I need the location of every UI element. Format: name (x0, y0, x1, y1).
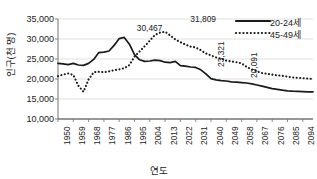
x-tick-label: 2013 (169, 126, 179, 145)
population-projection-chart: 인구(천 명) 35,00030,00025,00020,00015,00010… (0, 0, 317, 179)
series-line-20-24세 (58, 37, 313, 91)
data-annotation: 23,321 (216, 41, 226, 67)
legend-marks (236, 21, 270, 33)
x-tick-label: 2031 (199, 126, 209, 145)
x-tick-label: 2085 (291, 126, 301, 145)
x-tick-label: 2040 (215, 126, 225, 145)
data-annotation: 20,091 (249, 52, 259, 78)
data-annotation: 30,467 (137, 23, 163, 33)
x-tick-label: 2076 (276, 126, 286, 145)
x-tick-label: 1968 (92, 126, 102, 145)
x-tick-label: 2058 (245, 126, 255, 145)
x-tick-label: 2022 (184, 126, 194, 145)
axis-tickmarks (55, 19, 303, 122)
x-tick-label: 2094 (306, 126, 316, 145)
x-tick-label: 1977 (107, 126, 117, 145)
x-tick-label: 1986 (123, 126, 133, 145)
data-annotation: 31,809 (190, 14, 216, 24)
x-tick-label: 2004 (153, 126, 163, 145)
x-tick-label: 1950 (62, 126, 72, 145)
x-tick-label: 2067 (260, 126, 270, 145)
x-tick-label: 2049 (230, 126, 240, 145)
x-tick-label: 1995 (138, 126, 148, 145)
x-axis-title: 연도 (0, 163, 317, 177)
legend-label-45-49: 45-49세 (270, 28, 301, 41)
x-tick-label: 1959 (77, 126, 87, 145)
